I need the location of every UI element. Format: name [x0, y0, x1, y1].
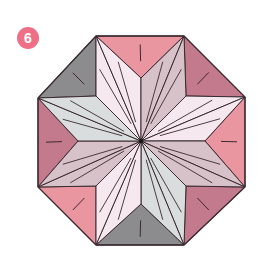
octagon-star-diagram: [0, 0, 272, 265]
fold-line: [46, 142, 62, 143]
center-point: [139, 139, 143, 143]
